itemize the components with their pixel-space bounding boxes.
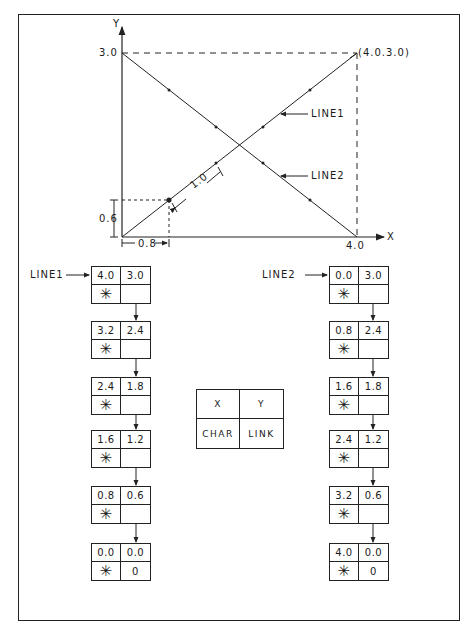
asterisk-icon: ✳ — [92, 449, 121, 467]
node-x: 4.0 — [330, 544, 359, 562]
node-link — [359, 396, 388, 414]
list1-node: 0.0 0.0 ✳ 0 — [91, 543, 151, 581]
node-x: 2.4 — [92, 378, 121, 396]
node-link — [359, 340, 388, 358]
list1-node: 2.4 1.8 ✳ — [91, 377, 151, 415]
list2-node: 0.8 2.4 ✳ — [329, 321, 389, 359]
node-link — [359, 285, 388, 303]
node-y: 2.4 — [121, 322, 150, 340]
node-legend: X Y CHAR LINK — [196, 389, 284, 449]
list1-node: 4.0 3.0 ✳ — [91, 266, 151, 304]
legend-x: X — [197, 390, 240, 419]
list2-node: 1.6 1.8 ✳ — [329, 377, 389, 415]
asterisk-icon: ✳ — [330, 285, 359, 303]
node-y: 1.8 — [359, 378, 388, 396]
asterisk-icon: ✳ — [330, 505, 359, 523]
list1-node: 0.8 0.6 ✳ — [91, 486, 151, 524]
list1-head-label: LINE1 — [30, 269, 64, 280]
line1-pointer-label: LINE1 — [311, 108, 345, 119]
node-x: 0.0 — [92, 544, 121, 562]
node-x: 0.8 — [330, 322, 359, 340]
legend-y: Y — [240, 390, 283, 419]
node-x: 2.4 — [330, 431, 359, 449]
list2-node: 3.2 0.6 ✳ — [329, 486, 389, 524]
node-x: 1.6 — [92, 431, 121, 449]
x-axis-label: X — [387, 231, 395, 242]
node-y: 3.0 — [359, 267, 388, 285]
list2-node: 2.4 1.2 ✳ — [329, 430, 389, 468]
node-link — [359, 449, 388, 467]
plot-graphics — [0, 0, 475, 635]
node-x: 3.2 — [330, 487, 359, 505]
list2-node: 4.0 0.0 ✳ 0 — [329, 543, 389, 581]
node-x: 3.2 — [92, 322, 121, 340]
node-y: 1.2 — [121, 431, 150, 449]
node-y: 0.6 — [359, 487, 388, 505]
dim-y-label: 0.6 — [99, 213, 118, 224]
node-x: 0.8 — [92, 487, 121, 505]
asterisk-icon: ✳ — [92, 505, 121, 523]
y-max-tick-label: 3.0 — [99, 47, 118, 58]
node-link — [121, 505, 150, 523]
node-x: 1.6 — [330, 378, 359, 396]
legend-char: CHAR — [197, 419, 240, 448]
asterisk-icon: ✳ — [92, 285, 121, 303]
list2-node: 0.0 3.0 ✳ — [329, 266, 389, 304]
asterisk-icon: ✳ — [330, 562, 359, 580]
node-x: 0.0 — [330, 267, 359, 285]
node-y: 0.6 — [121, 487, 150, 505]
list1-node: 1.6 1.2 ✳ — [91, 430, 151, 468]
list1-node: 3.2 2.4 ✳ — [91, 321, 151, 359]
node-link — [121, 396, 150, 414]
node-link: 0 — [359, 562, 388, 580]
node-y: 0.0 — [359, 544, 388, 562]
node-y: 1.8 — [121, 378, 150, 396]
node-y: 0.0 — [121, 544, 150, 562]
node-link — [121, 340, 150, 358]
asterisk-icon: ✳ — [330, 340, 359, 358]
node-link — [121, 449, 150, 467]
node-link: 0 — [121, 562, 150, 580]
asterisk-icon: ✳ — [330, 396, 359, 414]
line2-pointer-label: LINE2 — [311, 170, 345, 181]
node-link — [121, 285, 150, 303]
asterisk-icon: ✳ — [92, 340, 121, 358]
asterisk-icon: ✳ — [330, 449, 359, 467]
corner-point-label: (4.0.3.0) — [358, 47, 410, 58]
x-max-tick-label: 4.0 — [346, 240, 365, 251]
list2-head-label: LINE2 — [262, 269, 296, 280]
node-link — [359, 505, 388, 523]
legend-link: LINK — [240, 419, 283, 448]
asterisk-icon: ✳ — [92, 562, 121, 580]
y-axis-label: Y — [113, 18, 120, 29]
node-y: 1.2 — [359, 431, 388, 449]
node-x: 4.0 — [92, 267, 121, 285]
dim-x-label: 0.8 — [138, 238, 157, 249]
asterisk-icon: ✳ — [92, 396, 121, 414]
node-y: 3.0 — [121, 267, 150, 285]
node-y: 2.4 — [359, 322, 388, 340]
